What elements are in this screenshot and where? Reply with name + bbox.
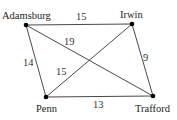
weight-adamsburg-irwin: 15 <box>76 11 87 22</box>
weight-adamsburg-trafford: 19 <box>64 36 75 47</box>
node-label-trafford: Trafford <box>135 103 171 114</box>
node-irwin <box>130 22 135 27</box>
node-label-irwin: Irwin <box>120 9 143 20</box>
edge-adamsburg-irwin <box>26 24 132 25</box>
node-penn <box>44 95 49 100</box>
node-label-adamsburg: Adamsburg <box>2 10 52 21</box>
weight-penn-trafford: 13 <box>93 99 104 110</box>
weight-adamsburg-penn: 14 <box>23 57 34 68</box>
node-label-penn: Penn <box>36 103 58 114</box>
weight-irwin-penn: 15 <box>56 66 67 77</box>
graph-diagram: Adamsburg Irwin Penn Trafford 15 19 14 1… <box>0 0 177 120</box>
edge-irwin-penn <box>46 24 132 97</box>
node-adamsburg <box>24 23 29 28</box>
weight-irwin-trafford: 9 <box>143 52 148 63</box>
node-trafford <box>151 94 156 99</box>
edge-penn-trafford <box>46 96 153 97</box>
